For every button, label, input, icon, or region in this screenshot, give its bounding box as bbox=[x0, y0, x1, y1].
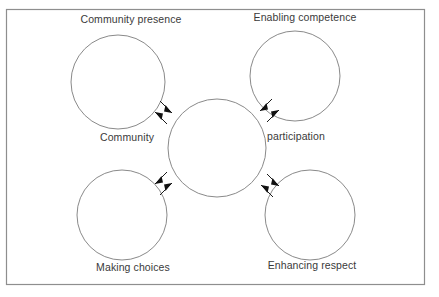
label-making-choices: Making choices bbox=[96, 261, 170, 273]
label-central-participation: participation bbox=[267, 130, 325, 142]
label-central-community: Community bbox=[100, 131, 154, 143]
diagram-graphic bbox=[0, 0, 439, 297]
label-enhancing-respect: Enhancing respect bbox=[268, 259, 357, 271]
label-enabling-competence: Enabling competence bbox=[254, 11, 357, 23]
diagram-canvas: Community presence Enabling competence M… bbox=[0, 0, 439, 297]
outer-border bbox=[7, 10, 425, 285]
label-community-presence: Community presence bbox=[80, 13, 181, 25]
